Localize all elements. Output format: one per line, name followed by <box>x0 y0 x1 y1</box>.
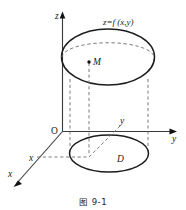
y-axis-group <box>63 129 178 135</box>
origin-label: O <box>51 126 58 136</box>
figure-container: z y x O y x M D z=f (x,y) 图 9-1 <box>0 0 186 210</box>
surface-top-ellipse <box>62 29 155 85</box>
x-axis-label: x <box>7 169 13 179</box>
y-axis-label: y <box>171 134 177 144</box>
inner-axis-diagonal <box>89 126 120 157</box>
inner-y-label: y <box>119 116 125 126</box>
inner-x-label: x <box>28 153 34 163</box>
z-axis-group <box>60 12 66 132</box>
coordinate-diagram: z y x O y x M D z=f (x,y) <box>0 0 186 210</box>
surface-back-arc <box>62 43 155 57</box>
x-axis-group <box>14 132 63 188</box>
point-m-label: M <box>92 57 102 67</box>
x-axis-arrowhead <box>14 180 23 187</box>
region-d-label: D <box>116 154 124 164</box>
z-axis-arrowhead <box>60 12 66 19</box>
figure-caption: 图 9-1 <box>0 195 186 207</box>
surface-function-label: z=f (x,y) <box>102 17 134 27</box>
point-m-dot <box>87 60 90 63</box>
region-d-ellipse <box>70 135 149 172</box>
z-axis-label: z <box>54 11 59 21</box>
